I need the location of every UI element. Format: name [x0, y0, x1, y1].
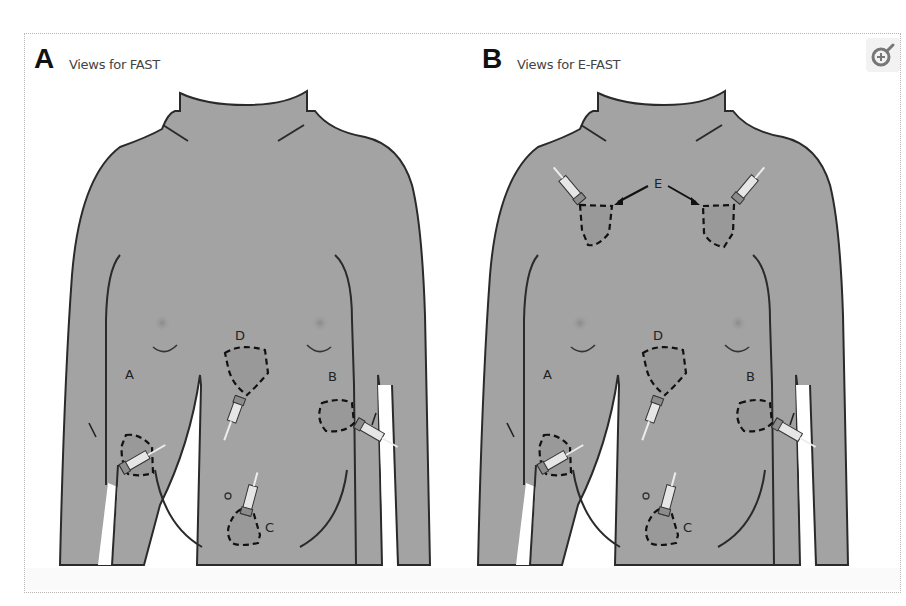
- view-label-a: A: [125, 367, 134, 382]
- view-label-b: B: [328, 369, 337, 384]
- view-label-e: E: [654, 176, 662, 191]
- fast-views-diagram: A B C D A B C D E: [0, 0, 906, 606]
- view-label-c: C: [265, 520, 274, 535]
- view-label-d: D: [653, 328, 663, 343]
- view-label-c: C: [683, 520, 692, 535]
- panel-b-torso: A B C D E: [478, 91, 848, 565]
- view-label-d: D: [235, 328, 245, 343]
- view-label-a: A: [543, 367, 552, 382]
- view-label-b: B: [746, 369, 755, 384]
- panel-a-torso: A B C D: [60, 91, 430, 565]
